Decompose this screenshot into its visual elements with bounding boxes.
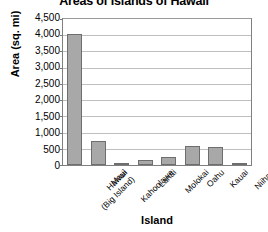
x-axis-title: Island xyxy=(62,214,252,226)
y-axis-tick-label: 3,500 xyxy=(20,46,60,56)
y-axis-tick-label: 0 xyxy=(20,161,60,171)
bar xyxy=(185,146,200,165)
y-axis-tick-label: 4,500 xyxy=(20,13,60,23)
x-axis-tick-label-line: Lanai xyxy=(157,168,178,189)
bar-slot xyxy=(63,19,87,165)
x-axis-tick-label: Kauai xyxy=(229,168,251,190)
bar xyxy=(67,34,82,165)
x-axis-tick-label-line: Kauai xyxy=(229,168,251,190)
bar-slot xyxy=(134,19,158,165)
y-axis-tick-labels: 4,5004,0003,5003,0002,5002,0001,5001,000… xyxy=(20,14,60,166)
x-axis-tick-labels: Hawaii(Big Island)MauiKahoolaweLanaiMolo… xyxy=(62,168,252,214)
y-axis-tick-label: 2,500 xyxy=(20,79,60,89)
bar-series xyxy=(63,19,251,165)
bar-slot xyxy=(181,19,205,165)
bar-chart: Areas of Islands of Hawaii Area (sq. mi)… xyxy=(0,0,268,232)
x-axis-tick-label: Lanai xyxy=(157,168,178,189)
bar xyxy=(91,141,106,165)
chart-title: Areas of Islands of Hawaii xyxy=(0,0,268,8)
y-axis-tick-label: 1,000 xyxy=(20,128,60,138)
bar-slot xyxy=(228,19,252,165)
x-axis-tick-label: Niihau xyxy=(253,168,268,192)
bar-slot xyxy=(87,19,111,165)
y-axis-tick-label: 2,000 xyxy=(20,95,60,105)
plot-area xyxy=(62,18,252,166)
bar xyxy=(114,163,129,165)
y-axis-tick-label: 500 xyxy=(20,145,60,155)
bar xyxy=(138,160,153,165)
x-axis-tick-label-line: Niihau xyxy=(253,168,268,192)
bar xyxy=(208,147,223,165)
bar-slot xyxy=(110,19,134,165)
y-axis-tick-mark xyxy=(60,165,63,166)
bar-slot xyxy=(204,19,228,165)
y-axis-tick-label: 4,000 xyxy=(20,29,60,39)
bar xyxy=(161,157,176,165)
y-axis-tick-label: 1,500 xyxy=(20,112,60,122)
y-axis-tick-label: 3,000 xyxy=(20,62,60,72)
bar-slot xyxy=(157,19,181,165)
bar xyxy=(232,163,247,165)
